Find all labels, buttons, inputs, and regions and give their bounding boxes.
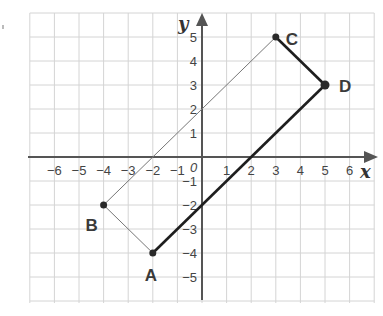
point-B [100, 202, 107, 209]
y-tick-label: −3 [182, 222, 197, 237]
y-axis-label: y [177, 13, 190, 34]
coordinate-plane: x y 0 −6−5−4−3−2−112345654321−1−2−3−4−5 … [0, 0, 383, 316]
x-axis-label: x [359, 161, 371, 182]
x-tick-label: 1 [223, 163, 230, 178]
y-tick-label: 1 [190, 126, 197, 141]
point-D [321, 81, 330, 90]
point-label-B: B [86, 216, 98, 235]
y-axis-arrow-icon [196, 13, 208, 26]
x-tick-label: 2 [248, 163, 255, 178]
point-label-C: C [286, 30, 298, 49]
segments [104, 37, 325, 253]
x-tick-label: −4 [96, 163, 111, 178]
point-A [149, 250, 156, 257]
coordinate-plane-figure: x y 0 −6−5−4−3−2−112345654321−1−2−3−4−5 … [0, 0, 383, 316]
x-tick-label: −2 [145, 163, 160, 178]
x-tick-label: 3 [272, 163, 279, 178]
y-tick-label: −5 [182, 270, 197, 285]
origin-label: 0 [190, 160, 198, 175]
point-label-D: D [339, 77, 351, 96]
x-tick-label: −5 [72, 163, 87, 178]
y-tick-label: 5 [190, 30, 197, 45]
y-tick-label: −1 [182, 174, 197, 189]
point-C [272, 34, 279, 41]
point-label-A: A [145, 266, 157, 285]
x-tick-label: 4 [297, 163, 304, 178]
y-tick-label: 3 [190, 78, 197, 93]
y-tick-label: −4 [182, 246, 197, 261]
x-tick-label: −6 [47, 163, 62, 178]
stray-mark [2, 25, 4, 29]
x-tick-label: 6 [346, 163, 353, 178]
y-tick-label: 4 [190, 54, 197, 69]
x-tick-label: 5 [321, 163, 328, 178]
